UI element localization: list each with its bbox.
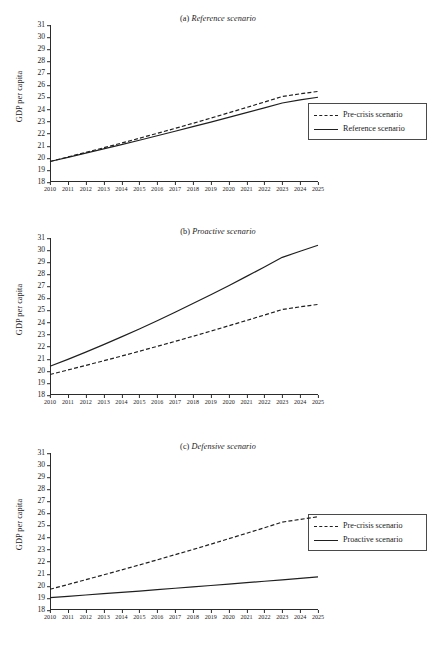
x-axis-tick-label: 2022 <box>258 182 270 192</box>
y-axis-tick-label: 31 <box>4 21 50 29</box>
y-axis-tick-label: 22 <box>4 343 50 351</box>
chart-panel-defensive: (c) Defensive scenario GDP per capita 31… <box>0 428 436 643</box>
series-lines <box>50 453 318 610</box>
y-axis-tick-label: 19 <box>4 379 50 387</box>
panel-name: Reference scenario <box>192 14 256 23</box>
panel-name: Defensive scenario <box>192 442 256 451</box>
x-axis-tick-label: 2021 <box>240 182 252 192</box>
x-axis-tick-label: 2019 <box>205 610 217 620</box>
x-axis-tick-label: 2015 <box>133 395 145 405</box>
y-axis-tick-label: 26 <box>4 295 50 303</box>
x-axis-tick-label: 2016 <box>151 395 163 405</box>
y-axis-tick-label: 20 <box>4 367 50 375</box>
x-axis-tick-label: 2019 <box>205 395 217 405</box>
x-axis-tick-label: 2015 <box>133 182 145 192</box>
panel-title: (a) Reference scenario <box>0 14 436 23</box>
y-axis-tick-label: 23 <box>4 331 50 339</box>
x-axis-tick-label: 2023 <box>276 395 288 405</box>
y-axis-tick-label: 19 <box>4 166 50 174</box>
plot-area: 3130292827262524232221201918201020112012… <box>50 238 318 395</box>
series-line <box>50 97 318 161</box>
y-axis-tick-label: 28 <box>4 57 50 65</box>
y-axis-tick-label: 21 <box>4 570 50 578</box>
legend-label: Pre-crisis scenario <box>343 111 403 119</box>
panel-index: (a) <box>180 14 189 23</box>
x-axis-tick-label: 2018 <box>187 610 199 620</box>
x-axis-tick-label: 2017 <box>169 182 181 192</box>
solid-line-icon <box>313 124 339 134</box>
x-axis-tick-label: 2017 <box>169 610 181 620</box>
y-axis-tick-label: 20 <box>4 582 50 590</box>
legend-item: Reference scenario <box>313 122 420 136</box>
x-axis-tick-label: 2023 <box>276 182 288 192</box>
panel-title: (b) Proactive scenario <box>0 227 436 236</box>
x-axis-tick-label: 2023 <box>276 610 288 620</box>
x-axis-tick-label: 2022 <box>258 395 270 405</box>
y-axis-tick-label: 19 <box>4 594 50 602</box>
series-line <box>50 517 318 589</box>
series-line <box>50 577 318 598</box>
x-axis-tick-label: 2010 <box>44 395 56 405</box>
x-axis-tick-label: 2012 <box>80 395 92 405</box>
panel-index: (c) <box>180 442 189 451</box>
legend: Pre-crisis scenario Reference scenario <box>308 103 427 140</box>
x-axis-tick-label: 2020 <box>223 610 235 620</box>
chart-panel-reference: (a) Reference scenario GDP per capita 31… <box>0 0 436 215</box>
dashed-line-icon <box>313 110 339 120</box>
y-axis-tick-label: 21 <box>4 142 50 150</box>
x-axis-tick-label: 2014 <box>115 610 127 620</box>
panel-index: (b) <box>180 227 190 236</box>
series-lines <box>50 25 318 182</box>
series-line <box>50 245 318 366</box>
x-axis-tick-label: 2011 <box>62 182 74 192</box>
y-axis-tick-label: 23 <box>4 546 50 554</box>
y-axis-tick-label: 28 <box>4 485 50 493</box>
y-axis-tick-label: 24 <box>4 534 50 542</box>
x-axis-tick-label: 2024 <box>294 182 306 192</box>
x-axis-tick-label: 2025 <box>312 395 324 405</box>
y-axis-tick-label: 25 <box>4 522 50 530</box>
plot-area: 3130292827262524232221201918201020112012… <box>50 453 318 610</box>
plot-area: 3130292827262524232221201918201020112012… <box>50 25 318 182</box>
x-axis-tick-label: 2020 <box>223 395 235 405</box>
y-axis-tick-label: 22 <box>4 130 50 138</box>
x-axis-tick-label: 2020 <box>223 182 235 192</box>
x-axis-tick-label: 2025 <box>312 610 324 620</box>
y-axis-tick-label: 24 <box>4 106 50 114</box>
x-axis-tick-label: 2014 <box>115 395 127 405</box>
x-axis-tick-label: 2019 <box>205 182 217 192</box>
x-axis-tick-label: 2010 <box>44 610 56 620</box>
series-lines <box>50 238 318 395</box>
x-axis-tick-label: 2010 <box>44 182 56 192</box>
x-axis-tick-label: 2021 <box>240 395 252 405</box>
x-axis-tick-label: 2025 <box>312 182 324 192</box>
legend-label: Reference scenario <box>343 125 405 133</box>
x-axis-tick-label: 2013 <box>98 395 110 405</box>
y-axis-tick-label: 25 <box>4 307 50 315</box>
x-axis-tick-label: 2016 <box>151 182 163 192</box>
legend-item: Pre-crisis scenario <box>313 108 420 122</box>
x-axis-tick-label: 2024 <box>294 395 306 405</box>
x-axis-tick-label: 2022 <box>258 610 270 620</box>
y-axis-tick-label: 27 <box>4 283 50 291</box>
y-axis-tick-label: 25 <box>4 94 50 102</box>
panel-name: Proactive scenario <box>192 227 256 236</box>
x-axis-tick-label: 2021 <box>240 610 252 620</box>
y-axis-tick-label: 22 <box>4 558 50 566</box>
y-axis-tick-label: 26 <box>4 82 50 90</box>
y-axis-tick-label: 23 <box>4 118 50 126</box>
y-axis-tick-label: 26 <box>4 510 50 518</box>
y-axis-tick-label: 30 <box>4 461 50 469</box>
x-axis-tick-label: 2017 <box>169 395 181 405</box>
y-axis-tick-label: 29 <box>4 258 50 266</box>
y-axis-tick-label: 27 <box>4 70 50 78</box>
y-axis-tick-label: 29 <box>4 45 50 53</box>
x-axis-tick-label: 2011 <box>62 610 74 620</box>
x-axis-tick-label: 2018 <box>187 182 199 192</box>
x-axis-tick-label: 2014 <box>115 182 127 192</box>
y-axis-tick-label: 27 <box>4 498 50 506</box>
y-axis-tick-label: 31 <box>4 234 50 242</box>
y-axis-tick-label: 28 <box>4 270 50 278</box>
x-axis-tick-label: 2024 <box>294 610 306 620</box>
series-line <box>50 304 318 374</box>
